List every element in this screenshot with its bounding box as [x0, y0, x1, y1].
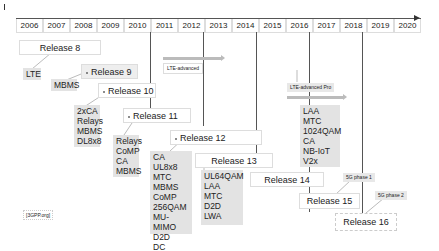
- feature-item: CA: [116, 156, 136, 166]
- feature-item: UL64QAM: [204, 171, 240, 181]
- feature-item: V2x: [303, 156, 337, 166]
- feature-item: MBMS: [54, 80, 74, 90]
- release-label: Release 10: [108, 86, 154, 96]
- feature-item: Relays: [77, 116, 97, 126]
- release-15: Release 15: [299, 193, 360, 209]
- release-13: Release 13: [195, 153, 273, 168]
- feature-item: MU-MIMO: [153, 212, 189, 232]
- feature-item: Relays: [116, 136, 136, 146]
- release-label: Release 15: [307, 196, 353, 206]
- release-label: Release 8: [40, 43, 81, 53]
- lte-advanced-pro-tag: LTE-advanced Pro: [287, 83, 334, 92]
- release-9: Release 9: [81, 64, 138, 79]
- release-8: Release 8: [19, 40, 101, 55]
- feature-list: 2xCA Relays MBMS DL8x8: [74, 105, 100, 147]
- feature-item: DC: [153, 242, 189, 251]
- feature-item: MTC: [204, 191, 240, 201]
- release-14: Release 14: [250, 172, 324, 187]
- feature-item: DL8x8: [77, 136, 97, 146]
- feature-item: MBMS: [116, 166, 136, 176]
- feature-item: NB-IoT: [303, 146, 337, 156]
- feature-item: 2xCA: [77, 106, 97, 116]
- feature-item: UL8x8: [153, 162, 189, 172]
- release-label: Release 16: [343, 217, 389, 227]
- lte-advanced-pro-arrow: [287, 96, 343, 99]
- feature-item: CoMP: [116, 146, 136, 156]
- dot-icon: [128, 116, 130, 118]
- lte-advanced-tag: LTE-advanced: [163, 63, 203, 74]
- release-label: Release 12: [180, 133, 226, 143]
- feature-list: LTE: [23, 68, 41, 80]
- feature-item: CoMP: [153, 192, 189, 202]
- feature-item: MBMS: [77, 126, 97, 136]
- feature-list: UL64QAM LAA MTC D2D LWA: [201, 170, 243, 225]
- dot-icon: [175, 138, 177, 140]
- release-label: Release 14: [264, 175, 310, 185]
- feature-item: MBMS: [153, 182, 189, 192]
- release-10: Release 10: [98, 83, 156, 98]
- feature-item: LWA: [204, 211, 240, 221]
- feature-list: MBMS: [51, 79, 77, 91]
- dot-icon: [86, 72, 88, 74]
- release-label: Release 9: [91, 67, 132, 77]
- feature-item: 256QAM: [153, 202, 189, 212]
- release-label: Release 11: [133, 111, 178, 121]
- 5g-phase-1-tag: 5G phase 1: [343, 173, 375, 182]
- source-label: [3GPP.org]: [23, 210, 53, 220]
- feature-item: MTC: [153, 172, 189, 182]
- feature-item: LAA: [303, 106, 337, 116]
- feature-list: CA UL8x8 MTC MBMS CoMP 256QAM MU-MIMO D2…: [150, 151, 192, 234]
- release-16: Release 16: [335, 213, 397, 231]
- feature-item: LTE: [26, 69, 38, 79]
- feature-item: D2D: [204, 201, 240, 211]
- release-12: Release 12: [170, 130, 262, 145]
- feature-item: MTC: [303, 116, 337, 126]
- feature-item: CA: [153, 152, 189, 162]
- dot-icon: [103, 91, 105, 93]
- feature-list: Relays CoMP CA MBMS: [113, 135, 139, 177]
- release-label: Release 13: [211, 156, 257, 166]
- feature-item: D2D: [153, 232, 189, 242]
- lte-advanced-arrow: [163, 57, 221, 60]
- feature-item: LAA: [204, 181, 240, 191]
- feature-list: LAA MTC 1024QAM CA NB-IoT V2x: [300, 105, 340, 167]
- 5g-phase-2-tag: 5G phase 2: [375, 191, 407, 200]
- release-11: Release 11: [123, 108, 191, 123]
- feature-item: CA: [303, 136, 337, 146]
- feature-item: 1024QAM: [303, 126, 337, 136]
